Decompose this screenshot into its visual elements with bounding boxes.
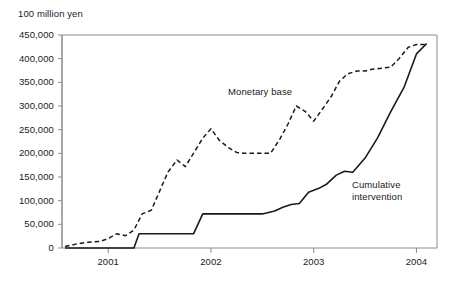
y-axis-tick-label: 150,000 [0,171,54,182]
series-line-cumulative-intervention [65,44,427,248]
x-axis-tick-label: 2001 [78,256,138,267]
y-axis-tick-label: 200,000 [0,147,54,158]
x-axis-tick-label: 2003 [284,256,344,267]
y-axis-tick-label: 300,000 [0,100,54,111]
y-axis-tick-label: 50,000 [0,218,54,229]
y-axis-tick-label: 100,000 [0,195,54,206]
chart-container: 100 million yen 450,000400,000350,000300… [0,0,452,286]
y-axis-tick-label: 450,000 [0,29,54,40]
x-axis-tick-label: 2004 [386,256,446,267]
annotation-cumulative-line2: intervention [352,191,402,203]
y-axis-tick-label: 250,000 [0,124,54,135]
x-axis-tick-label: 2002 [181,256,241,267]
annotation-cumulative-line1: Cumulative [352,179,401,191]
chart-plot-area [0,0,452,286]
y-axis-tick-label: 0 [0,242,54,253]
annotation-monetary-base: Monetary base [228,86,292,98]
y-axis-tick-label: 350,000 [0,76,54,87]
y-axis-tick-label: 400,000 [0,53,54,64]
